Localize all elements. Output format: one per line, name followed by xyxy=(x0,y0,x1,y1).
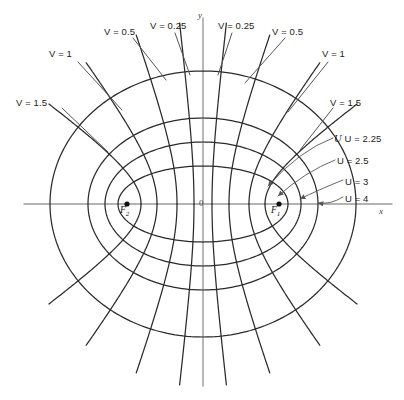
axis-label-x: x xyxy=(379,206,383,216)
hyperbola-v-0-25-ld xyxy=(180,204,194,385)
leader-v-1-right xyxy=(288,62,328,112)
label-u-4-text: U = 4 xyxy=(345,193,368,204)
hyperbola-v-1-5-lu xyxy=(49,104,141,204)
hyperbola-v-1-ld xyxy=(86,204,157,345)
hyperbola-v-1-ru xyxy=(249,63,320,204)
leader-u-3 xyxy=(300,180,343,199)
leader-v-0-5-right xyxy=(245,38,285,83)
label-u-3-text: U = 3 xyxy=(345,176,368,187)
hyperbola-v-1-rd xyxy=(249,204,320,345)
leader-v-1-left xyxy=(78,62,122,110)
hyperbola-v-0-5-ld xyxy=(136,204,177,373)
focus-label-f1: F1 xyxy=(271,205,280,218)
hyperbola-v-1-lu xyxy=(86,63,157,204)
label-v-0-25-right: V = 0.25 xyxy=(218,20,254,31)
focus-label-f2: F2 xyxy=(120,205,129,218)
focus-label-f1-sub: 1 xyxy=(277,210,281,218)
label-v-0-5-left: V = 0.5 xyxy=(104,26,135,37)
hyperbola-v-0-25-lu xyxy=(180,23,194,204)
label-u-3: U = 3 xyxy=(345,176,368,187)
label-v-1-5-right: V = 1.5 xyxy=(330,97,361,108)
leader-v-0-25-left xyxy=(175,33,190,75)
hyperbola-v-0-5-ru xyxy=(229,35,270,204)
label-u-2-5-text: U = 2.5 xyxy=(337,155,369,166)
label-u-2-5: U = 2.5 xyxy=(337,155,369,166)
label-u-2-25-text: U = 2.25 xyxy=(344,133,381,144)
label-v-1-5-left: V = 1.5 xyxy=(16,97,47,108)
figure-canvas: U U = 2.25 U = 2.5 U = 3 U = 4 V = 1.5 V… xyxy=(0,0,404,400)
origin-label: 0 xyxy=(199,198,204,208)
hyperbola-v-0-5-lu xyxy=(136,35,177,204)
hyperbola-v-1-5-rd xyxy=(265,204,357,304)
hyperbola-v-0-5-rd xyxy=(229,204,270,373)
label-v-1-left: V = 1 xyxy=(49,48,72,59)
label-v-0-5-right: V = 0.5 xyxy=(272,26,303,37)
label-u-2-25: U U = 2.25 xyxy=(334,133,381,144)
hyperbola-v-0-25-ru xyxy=(212,23,226,204)
focus-label-f2-sub: 2 xyxy=(126,210,130,218)
hyperbola-v-0-25-rd xyxy=(212,204,226,385)
leader-v-1-5-left xyxy=(62,108,108,152)
axis-label-y: y xyxy=(198,10,202,20)
label-u-4: U = 4 xyxy=(345,193,368,204)
label-v-1-right: V = 1 xyxy=(322,48,345,59)
hyperbola-v-1-5-ru xyxy=(265,104,357,204)
label-v-0-25-left: V = 0.25 xyxy=(150,20,186,31)
leader-u-4 xyxy=(318,197,343,203)
hyperbola-v-1-5-ld xyxy=(49,204,141,304)
